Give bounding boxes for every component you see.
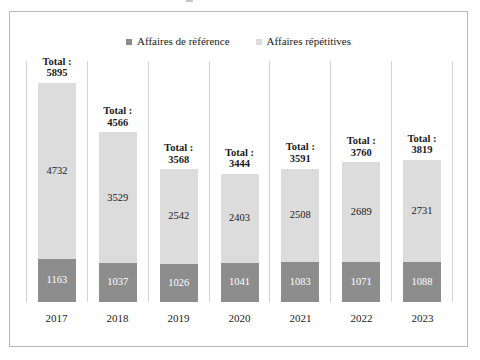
segment-value-label: 2542 <box>168 211 189 222</box>
stacked-bar[interactable]: Total :344424031041 <box>221 174 259 302</box>
segment-value-label: 1083 <box>290 277 311 288</box>
total-prefix: Total : <box>347 135 376 146</box>
segment-value-label: 2508 <box>290 210 311 221</box>
bar-column-2019: Total :356825421026 <box>149 61 210 302</box>
segment-value-label: 1071 <box>351 277 372 288</box>
segment-value-label: 2731 <box>412 206 433 217</box>
cut-off-title-glyph <box>186 0 193 2</box>
bar-total-label: Total :3819 <box>408 133 437 157</box>
bar-total-label: Total :3591 <box>286 141 315 165</box>
bar-segment-affaires-de-reference[interactable]: 1041 <box>221 263 259 302</box>
bar-column-2020: Total :344424031041 <box>210 61 271 302</box>
total-value: 3760 <box>351 147 372 158</box>
x-tick-2019: 2019 <box>148 312 209 324</box>
total-prefix: Total : <box>286 141 315 152</box>
x-axis-tick-labels: 2017201820192020202120222023 <box>26 312 453 324</box>
stacked-bar[interactable]: Total :359125081083 <box>281 169 319 302</box>
total-prefix: Total : <box>225 147 254 158</box>
segment-value-label: 1026 <box>168 278 189 289</box>
x-tick-2022: 2022 <box>331 312 392 324</box>
bar-total-label: Total :5895 <box>42 56 71 80</box>
segment-value-label: 2689 <box>351 207 372 218</box>
stacked-bar[interactable]: Total :356825421026 <box>160 169 198 302</box>
bar-total-label: Total :3760 <box>347 135 376 159</box>
square-swatch-icon <box>256 39 262 45</box>
total-value: 3819 <box>412 144 433 155</box>
chart-legend: Affaires de référence Affaires répétitiv… <box>10 36 467 47</box>
chart-frame: Affaires de référence Affaires répétitiv… <box>9 11 468 347</box>
bar-column-2023: Total :381927311088 <box>392 61 453 302</box>
bar-column-2022: Total :376026891071 <box>331 61 392 302</box>
bar-segment-affaires-de-reference[interactable]: 1026 <box>160 264 198 302</box>
total-value: 3568 <box>168 154 189 165</box>
stacked-bar[interactable]: Total :376026891071 <box>342 162 380 302</box>
total-value: 5895 <box>46 67 67 78</box>
total-value: 3444 <box>229 158 250 169</box>
segment-value-label: 1088 <box>412 277 433 288</box>
bar-segment-affaires-de-reference[interactable]: 1083 <box>281 262 319 302</box>
bar-segment-affaires-repetitives[interactable]: 4732 <box>38 83 76 259</box>
bar-segment-affaires-repetitives[interactable]: 2731 <box>403 160 441 261</box>
bar-segment-affaires-repetitives[interactable]: 2542 <box>160 169 198 263</box>
segment-value-label: 4732 <box>46 166 67 177</box>
bar-column-2018: Total :456635291037 <box>88 61 149 302</box>
bar-column-2017: Total :589547321163 <box>26 61 88 302</box>
bar-column-2021: Total :359125081083 <box>270 61 331 302</box>
bar-segment-affaires-repetitives[interactable]: 3529 <box>99 132 137 263</box>
bar-segment-affaires-de-reference[interactable]: 1037 <box>99 263 137 302</box>
x-tick-2023: 2023 <box>392 312 453 324</box>
bar-segment-affaires-repetitives[interactable]: 2403 <box>221 174 259 263</box>
bar-total-label: Total :3568 <box>164 142 193 166</box>
total-prefix: Total : <box>164 142 193 153</box>
total-prefix: Total : <box>408 133 437 144</box>
total-value: 4566 <box>107 117 128 128</box>
square-swatch-icon <box>126 39 132 45</box>
total-prefix: Total : <box>42 56 71 67</box>
segment-value-label: 1037 <box>107 277 128 288</box>
x-tick-2017: 2017 <box>26 312 87 324</box>
legend-item-affaires-repetitives[interactable]: Affaires répétitives <box>256 36 351 47</box>
bar-segment-affaires-de-reference[interactable]: 1163 <box>38 259 76 302</box>
bar-segment-affaires-repetitives[interactable]: 2689 <box>342 162 380 262</box>
stacked-bar[interactable]: Total :381927311088 <box>403 160 441 302</box>
segment-value-label: 2403 <box>229 213 250 224</box>
segment-value-label: 1163 <box>47 275 68 286</box>
bar-segment-affaires-de-reference[interactable]: 1071 <box>342 262 380 302</box>
legend-item-label: Affaires répétitives <box>267 36 351 47</box>
stacked-bar[interactable]: Total :456635291037 <box>99 132 137 302</box>
total-prefix: Total : <box>103 105 132 116</box>
legend-item-affaires-de-reference[interactable]: Affaires de référence <box>126 36 230 47</box>
total-value: 3591 <box>290 153 311 164</box>
plot-area: Total :589547321163Total :456635291037To… <box>26 61 453 302</box>
bar-total-label: Total :4566 <box>103 105 132 129</box>
x-tick-2018: 2018 <box>87 312 148 324</box>
legend-item-label: Affaires de référence <box>137 36 230 47</box>
bar-columns: Total :589547321163Total :456635291037To… <box>26 61 453 302</box>
bar-segment-affaires-repetitives[interactable]: 2508 <box>281 169 319 262</box>
stacked-bar[interactable]: Total :589547321163 <box>38 83 76 302</box>
x-tick-2021: 2021 <box>270 312 331 324</box>
bar-segment-affaires-de-reference[interactable]: 1088 <box>403 262 441 302</box>
segment-value-label: 3529 <box>107 193 128 204</box>
bar-total-label: Total :3444 <box>225 147 254 171</box>
x-tick-2020: 2020 <box>209 312 270 324</box>
segment-value-label: 1041 <box>229 277 250 288</box>
